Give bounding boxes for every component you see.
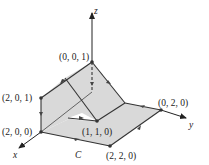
curve-label: C <box>75 150 82 160</box>
point-label-201: (2, 0, 1) <box>2 93 32 104</box>
y-axis-label: y <box>188 120 194 130</box>
x-axis-label: x <box>12 150 18 160</box>
point-label-200: (2, 0, 0) <box>2 127 32 138</box>
point-label-110: (1, 1, 0) <box>82 127 112 138</box>
diagram: z y x C (0, 0, 1) (2, 0, 1) (2, 0, 0) (1… <box>0 0 209 165</box>
point-label-220: (2, 2, 0) <box>106 151 136 162</box>
point-label-020: (0, 2, 0) <box>158 98 188 109</box>
point-label-001: (0, 0, 1) <box>59 52 89 63</box>
y-axis <box>161 110 186 118</box>
z-axis-label: z <box>93 6 98 16</box>
